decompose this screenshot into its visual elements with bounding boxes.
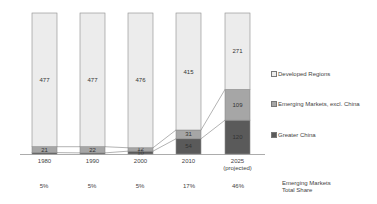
connector-line	[105, 151, 128, 153]
legend-label-china: Greater China	[278, 132, 316, 138]
legend-label-developed: Developed Regions	[278, 71, 330, 77]
emerging-swatch-icon	[271, 101, 277, 107]
x-tick-label: 1980	[38, 158, 52, 164]
china-swatch-icon	[271, 132, 277, 138]
share-value-2025: 46%	[223, 183, 253, 189]
share-value-1990: 5%	[77, 183, 107, 189]
x-tick-label: 2025	[231, 158, 245, 164]
bar-value-label: 109	[232, 102, 243, 108]
share-title-line1: Emerging Markets	[282, 180, 331, 187]
share-value-1980: 5%	[29, 183, 59, 189]
share-row-title: Emerging Markets Total Share	[282, 180, 331, 194]
share-title-line2: Total Share	[282, 187, 331, 194]
bar-value-label: 476	[135, 77, 146, 83]
x-axis-ticks: 19801990200020102025(projected)	[38, 158, 252, 171]
legend-label-emerging: Emerging Markets, excl. China	[278, 101, 360, 107]
bar-value-label: 22	[89, 147, 96, 153]
connector-line	[201, 120, 225, 139]
connector-line	[105, 147, 128, 148]
share-value-2010: 17%	[174, 183, 204, 189]
bar-value-label: 477	[87, 77, 98, 83]
bar-value-label: 31	[185, 131, 192, 137]
legend-item-emerging: Emerging Markets, excl. China	[271, 101, 360, 107]
bar-value-label: 54	[185, 143, 192, 149]
bar-value-label: 271	[232, 48, 243, 54]
share-value-2000: 5%	[125, 183, 155, 189]
legend-item-china: Greater China	[271, 132, 316, 138]
bar-value-label: 21	[41, 147, 48, 153]
connector-line	[201, 89, 225, 130]
x-tick-label: (projected)	[223, 165, 252, 171]
developed-swatch-icon	[271, 71, 277, 77]
bars: 214772247710124765431415120109271	[32, 13, 250, 156]
x-tick-label: 2000	[134, 158, 148, 164]
x-tick-label: 2010	[182, 158, 196, 164]
bar-value-label: 415	[183, 69, 194, 75]
x-tick-label: 1990	[86, 158, 100, 164]
legend-item-developed: Developed Regions	[271, 71, 330, 77]
bar-value-label: 477	[39, 77, 50, 83]
bar-value-label: 120	[232, 134, 243, 140]
